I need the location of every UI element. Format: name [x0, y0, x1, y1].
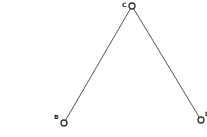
node-b-label: B — [54, 113, 59, 120]
node-c-label: C — [122, 1, 127, 8]
node-d[interactable] — [198, 117, 204, 123]
edge-c-b — [64, 6, 132, 123]
node-c[interactable] — [129, 3, 135, 9]
graph-diagram: C B D — [0, 0, 207, 137]
node-d-label: D — [205, 110, 207, 117]
edge-c-d — [132, 6, 201, 120]
node-b[interactable] — [61, 120, 67, 126]
